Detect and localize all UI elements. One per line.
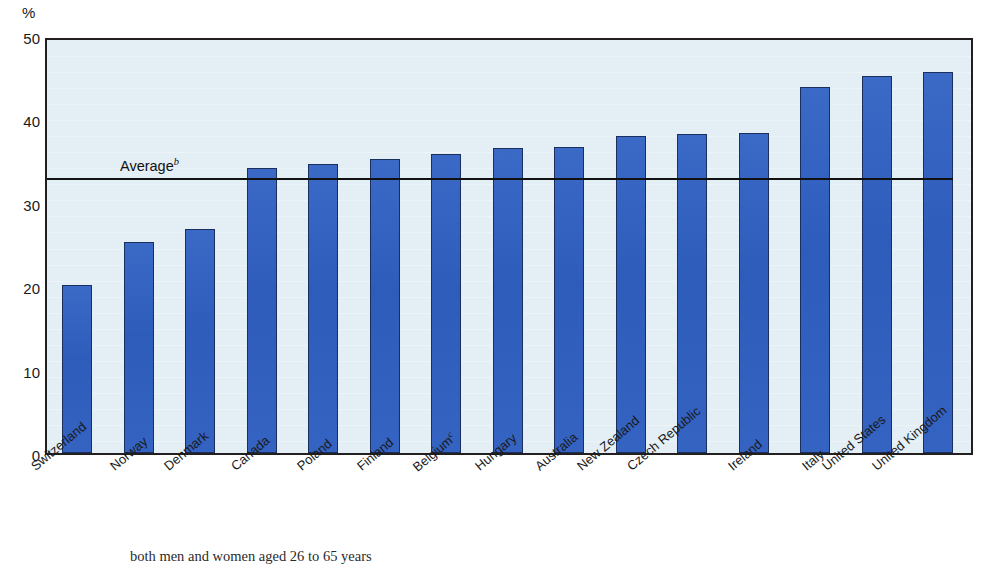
- bar: [185, 229, 215, 453]
- footnote-text: both men and women aged 26 to 65 years: [130, 548, 986, 564]
- bar: [247, 168, 277, 453]
- x-axis-category-labels: SwitzerlandNorwayDenmarkCanadaPolandFinl…: [0, 458, 986, 558]
- y-axis-tick-label: 50: [2, 30, 40, 47]
- bar: [739, 133, 769, 453]
- y-axis-tick-label: 30: [2, 196, 40, 213]
- y-axis-tick-label: 10: [2, 363, 40, 380]
- bar: [923, 72, 953, 453]
- y-axis-tick-label: 40: [2, 113, 40, 130]
- average-label-superscript: b: [174, 156, 179, 167]
- bar: [493, 148, 523, 453]
- bars-layer: [47, 40, 971, 453]
- bar: [124, 242, 154, 453]
- plot-area: Averageb: [45, 38, 973, 455]
- average-line: [47, 178, 953, 181]
- bar: [431, 154, 461, 453]
- bar: [370, 159, 400, 453]
- average-label: Averageb: [120, 156, 179, 174]
- bar: [616, 136, 646, 453]
- y-axis-ticks: 01020304050: [0, 38, 40, 455]
- bar: [800, 87, 830, 453]
- bar: [308, 164, 338, 453]
- y-axis-unit-label: %: [22, 4, 36, 21]
- average-label-text: Average: [120, 157, 174, 173]
- y-axis-tick-label: 20: [2, 280, 40, 297]
- bar-chart: % 01020304050 Averageb SwitzerlandNorway…: [0, 0, 986, 564]
- bar: [554, 147, 584, 453]
- bar: [862, 76, 892, 453]
